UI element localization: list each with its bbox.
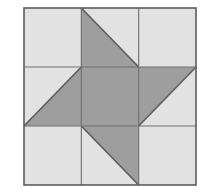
- figure-canvas: [0, 0, 219, 192]
- patch-center-square: [81, 67, 138, 126]
- quilt-block-diagram: [0, 0, 219, 192]
